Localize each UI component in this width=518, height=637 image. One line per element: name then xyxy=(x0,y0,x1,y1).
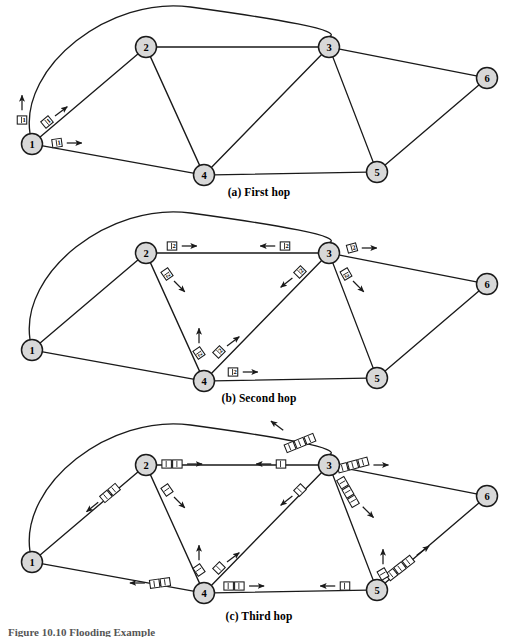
edge-5-6 xyxy=(384,290,480,372)
node-label: 2 xyxy=(143,42,148,53)
edge-3-5 xyxy=(332,262,373,369)
packet-group xyxy=(337,457,369,473)
node-label: 3 xyxy=(326,42,331,53)
edge-1-3 xyxy=(29,424,331,552)
edge-1-3 xyxy=(29,6,331,134)
packet-box xyxy=(347,460,358,470)
packet-group xyxy=(224,582,244,590)
node-6[interactable]: 6 xyxy=(477,486,498,507)
packet-group xyxy=(340,582,350,590)
node-label: 3 xyxy=(326,460,331,471)
packet-group: 1 xyxy=(52,138,63,147)
packet-group xyxy=(100,483,121,502)
node-5[interactable]: 5 xyxy=(367,368,388,389)
panel-caption-a: (a) First hop xyxy=(0,186,518,198)
edge-5-6 xyxy=(384,84,480,166)
panel-a: 111123456 xyxy=(17,6,497,186)
packet-box xyxy=(235,582,245,590)
node-2[interactable]: 2 xyxy=(136,37,157,58)
node-label: 6 xyxy=(484,491,489,502)
edge-2-4 xyxy=(150,474,200,585)
flooding-figure: 111123456222222222123456123456 (a) First… xyxy=(0,0,518,637)
packet-group: 2 xyxy=(280,242,290,250)
packet-box xyxy=(276,460,286,468)
edge-1-4 xyxy=(41,146,194,174)
node-1[interactable]: 1 xyxy=(22,552,43,573)
edge-1-4 xyxy=(41,564,194,592)
packet-group: 2 xyxy=(294,266,307,279)
packet-box xyxy=(193,564,205,576)
node-6[interactable]: 6 xyxy=(477,68,498,89)
packet-direction-arrow xyxy=(227,337,239,346)
packet-group xyxy=(276,460,286,468)
node-label: 5 xyxy=(374,585,379,596)
node-1[interactable]: 1 xyxy=(22,340,43,361)
node-label: 4 xyxy=(201,170,207,181)
packet-group: 2 xyxy=(167,242,177,250)
packet-box xyxy=(160,578,171,587)
packet-box xyxy=(224,582,234,590)
edge-2-4 xyxy=(150,56,200,167)
packet-box xyxy=(294,437,306,448)
packet-box xyxy=(340,582,350,590)
packet-group: 2 xyxy=(193,347,205,359)
packet-direction-arrow xyxy=(174,497,185,508)
edge-2-4 xyxy=(150,262,200,373)
node-2[interactable]: 2 xyxy=(136,455,157,476)
packet-box xyxy=(161,484,173,496)
node-4[interactable]: 4 xyxy=(194,165,215,186)
packet-group: 2 xyxy=(213,346,226,359)
node-6[interactable]: 6 xyxy=(477,274,498,295)
node-3[interactable]: 3 xyxy=(319,243,340,264)
node-2[interactable]: 2 xyxy=(136,243,157,264)
node-label: 2 xyxy=(143,460,148,471)
edge-3-6 xyxy=(338,255,477,282)
packet-group: 2 xyxy=(161,268,173,280)
packet-box xyxy=(284,441,296,452)
packet-box xyxy=(294,484,307,497)
packet-group xyxy=(294,484,307,497)
node-3[interactable]: 3 xyxy=(319,37,340,58)
packet-group xyxy=(193,564,205,576)
packet-box xyxy=(173,460,183,468)
network-diagram-svg: 111123456222222222123456123456 xyxy=(0,0,518,637)
node-label: 1 xyxy=(29,139,34,150)
packet-box xyxy=(358,457,369,467)
panel-c: 123456 xyxy=(22,421,498,603)
packet-direction-arrow xyxy=(174,281,185,292)
packet-group: 2 xyxy=(346,243,357,253)
packet-group xyxy=(161,484,173,496)
node-3[interactable]: 3 xyxy=(319,455,340,476)
edge-4-5 xyxy=(213,172,367,175)
packet-group: 2 xyxy=(228,368,238,376)
edge-3-5 xyxy=(332,56,373,163)
node-label: 6 xyxy=(484,73,489,84)
packet-label: 1 xyxy=(22,116,25,123)
node-5[interactable]: 5 xyxy=(367,580,388,601)
edge-1-2 xyxy=(39,259,139,344)
packet-direction-arrow xyxy=(363,507,374,518)
node-label: 4 xyxy=(201,588,207,599)
panel-caption-c: (c) Third hop xyxy=(0,610,518,622)
edge-1-2 xyxy=(39,471,139,556)
packet-group xyxy=(162,460,182,468)
packet-direction-arrow xyxy=(271,421,283,430)
node-5[interactable]: 5 xyxy=(367,162,388,183)
node-label: 1 xyxy=(29,557,34,568)
edge-3-6 xyxy=(338,467,477,494)
node-4[interactable]: 4 xyxy=(194,371,215,392)
node-1[interactable]: 1 xyxy=(22,134,43,155)
node-4[interactable]: 4 xyxy=(194,583,215,604)
edge-1-3 xyxy=(29,212,331,340)
packet-group: 2 xyxy=(340,268,352,280)
packet-group: 1 xyxy=(17,116,27,124)
packet-direction-arrow xyxy=(353,281,364,292)
packet-group xyxy=(385,555,414,580)
edge-3-5 xyxy=(332,474,373,581)
packet-direction-arrow xyxy=(227,553,239,562)
packet-direction-arrow xyxy=(417,546,429,555)
packet-box xyxy=(162,460,172,468)
edge-1-2 xyxy=(39,53,139,138)
packet-group: 1 xyxy=(41,116,54,128)
node-label: 3 xyxy=(326,248,331,259)
